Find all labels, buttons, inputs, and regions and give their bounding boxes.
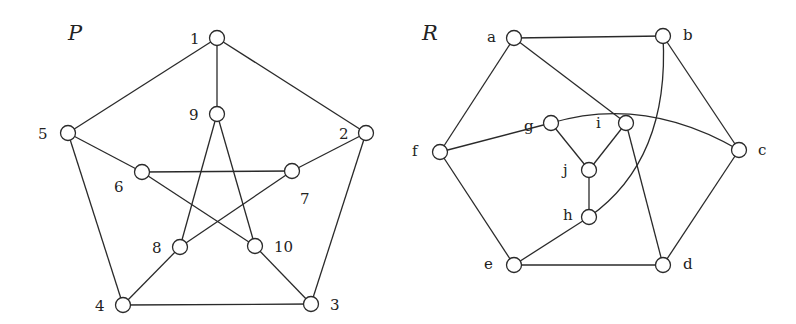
vertex-10	[248, 239, 263, 254]
graph-canvas: 12345678910P abcdefghijR	[0, 0, 796, 324]
edge-e-h	[514, 217, 589, 265]
vertex-d	[656, 258, 671, 273]
vertex-label-8: 8	[152, 239, 162, 257]
vertex-6	[135, 165, 150, 180]
graph-title-P: P	[67, 21, 83, 45]
vertex-label-f: f	[412, 142, 419, 160]
vertex-b	[656, 29, 671, 44]
edge-3-4	[123, 304, 311, 305]
edge-4-5	[68, 133, 123, 305]
vertex-label-a: a	[487, 28, 496, 46]
vertex-1	[210, 31, 225, 46]
edge-9-10	[217, 114, 255, 246]
vertex-2	[359, 126, 374, 141]
vertex-8	[173, 240, 188, 255]
vertex-label-e: e	[484, 255, 493, 273]
vertex-c	[732, 143, 747, 158]
vertex-9	[210, 107, 225, 122]
edge-2-3	[311, 133, 366, 304]
vertex-label-3: 3	[330, 296, 340, 314]
vertex-label-c: c	[758, 141, 766, 159]
vertex-7	[285, 164, 300, 179]
vertex-label-2: 2	[339, 125, 349, 143]
edge-2-7	[292, 133, 366, 171]
edge-c-d	[663, 150, 739, 265]
vertex-4	[116, 298, 131, 313]
edge-8-9	[180, 114, 217, 247]
vertex-a	[507, 31, 522, 46]
vertex-label-d: d	[683, 255, 693, 273]
vertex-label-6: 6	[114, 178, 124, 196]
vertex-label-5: 5	[38, 125, 48, 143]
vertex-label-b: b	[683, 26, 693, 44]
edge-a-i	[514, 38, 626, 123]
vertex-label-i: i	[596, 114, 601, 132]
edge-i-d	[626, 123, 663, 265]
vertex-5	[61, 126, 76, 141]
petersen-graph-p: 12345678910P	[38, 21, 374, 315]
vertex-f	[433, 145, 448, 160]
vertex-label-h: h	[563, 206, 573, 224]
edge-a-b	[514, 36, 663, 38]
edge-6-7	[142, 171, 292, 172]
edge-g-j	[551, 123, 589, 170]
vertex-label-j: j	[561, 161, 568, 179]
arc-edge-g-c	[551, 114, 739, 150]
vertex-h	[582, 210, 597, 225]
edge-7-8	[180, 171, 292, 247]
vertex-label-4: 4	[95, 297, 105, 315]
edge-e-f	[440, 152, 514, 265]
vertex-i	[619, 116, 634, 131]
graph-r: abcdefghijR	[412, 21, 766, 273]
vertex-label-g: g	[524, 117, 534, 135]
vertex-j	[582, 163, 597, 178]
vertex-label-7: 7	[300, 190, 310, 208]
graph-title-R: R	[421, 21, 438, 45]
vertex-label-1: 1	[190, 30, 200, 48]
vertex-label-10: 10	[274, 238, 293, 256]
edge-1-2	[217, 38, 366, 133]
vertex-g	[544, 116, 559, 131]
vertex-e	[507, 258, 522, 273]
edge-i-j	[589, 123, 626, 170]
vertex-label-9: 9	[189, 106, 199, 124]
vertex-3	[304, 297, 319, 312]
edge-b-c	[663, 36, 739, 150]
